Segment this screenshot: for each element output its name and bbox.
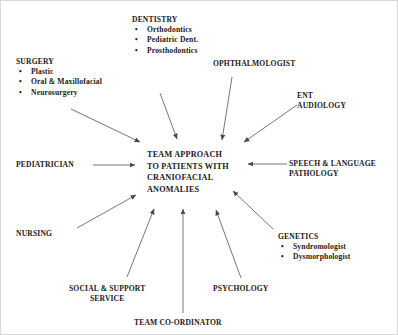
node-psychology[interactable]: PSYCHOLOGY [213,284,269,294]
node-genetics-list: •Syndromologist •Dysmorphologist [278,242,351,262]
list-item-label: Pediatric Dent. [147,35,198,44]
arrow-nursing-to-center [77,195,136,228]
center-line-3: CRANIOFACIAL [147,172,229,184]
node-psychology-heading: PSYCHOLOGY [213,284,269,294]
node-ent-audiology-line1: ENT [297,91,346,101]
node-ophthalmologist-heading: OPHTHALMOLOGIST [213,59,295,69]
list-item: •Plastic [16,67,102,77]
node-surgery-heading: SURGERY [16,57,102,67]
list-item-label: Dysmorphologist [293,252,351,261]
node-social-support-line2: SERVICE [69,294,145,304]
node-pediatrician[interactable]: PEDIATRICIAN [16,160,74,170]
node-dentistry-heading: DENTISTRY [132,15,198,25]
node-pediatrician-heading: PEDIATRICIAN [16,160,74,170]
arrow-social-support-to-center [127,209,154,277]
center-line-2: TO PATIENTS WITH [147,161,229,173]
list-item-label: Plastic [31,67,54,76]
node-team-coordinator[interactable]: TEAM CO-ORDINATOR [134,318,222,328]
list-item-label: Prosthodontics [147,46,197,55]
list-item-label: Oral & Maxillofacial [31,77,102,86]
arrow-ophthalmologist-to-center [222,77,232,140]
node-nursing[interactable]: NURSING [16,229,52,239]
arrow-ent-audiology-to-center [244,105,297,142]
node-team-coordinator-heading: TEAM CO-ORDINATOR [134,318,222,328]
list-item-label: Syndromologist [293,242,346,251]
bullet-icon: • [19,67,22,77]
list-item: •Pediatric Dent. [132,35,198,45]
node-ophthalmologist[interactable]: OPHTHALMOLOGIST [213,59,295,69]
arrow-dentistry-to-center [160,93,177,139]
list-item-label: Neurosurgery [31,88,78,97]
list-item: •Prosthodontics [132,46,198,56]
center-line-4: ANOMALIES [147,184,229,196]
node-nursing-heading: NURSING [16,229,52,239]
bullet-icon: • [19,77,22,87]
node-dentistry-list: •Orthodontics •Pediatric Dent. •Prosthod… [132,25,198,56]
node-speech-language-line2: PATHOLOGY [289,169,376,179]
center-node-team-approach: TEAM APPROACH TO PATIENTS WITH CRANIOFAC… [147,149,229,195]
list-item: •Syndromologist [278,242,351,252]
arrow-psychology-to-center [216,210,241,278]
node-surgery[interactable]: SURGERY •Plastic •Oral & Maxillofacial •… [16,57,102,98]
list-item: •Orthodontics [132,25,198,35]
node-speech-language-line1: SPEECH & LANGUAGE [289,159,376,169]
arrow-genetics-to-center [233,191,273,229]
bullet-icon: • [281,252,284,262]
node-speech-language-pathology[interactable]: SPEECH & LANGUAGE PATHOLOGY [289,159,376,179]
bullet-icon: • [135,35,138,45]
center-line-1: TEAM APPROACH [147,149,229,161]
bullet-icon: • [135,46,138,56]
bullet-icon: • [19,88,22,98]
list-item: •Dysmorphologist [278,252,351,262]
node-social-support-service[interactable]: SOCIAL & SUPPORT SERVICE [69,284,145,304]
list-item-label: Orthodontics [147,25,192,34]
craniofacial-team-diagram: DENTISTRY •Orthodontics •Pediatric Dent.… [0,0,398,335]
node-genetics-heading: GENETICS [278,232,351,242]
node-social-support-line1: SOCIAL & SUPPORT [69,284,145,294]
bullet-icon: • [135,25,138,35]
arrow-surgery-to-center [71,109,140,142]
node-genetics[interactable]: GENETICS •Syndromologist •Dysmorphologis… [278,232,351,263]
node-dentistry[interactable]: DENTISTRY •Orthodontics •Pediatric Dent.… [132,15,198,56]
bullet-icon: • [281,242,284,252]
list-item: •Oral & Maxillofacial [16,77,102,87]
node-ent-audiology[interactable]: ENT AUDIOLOGY [297,91,346,111]
list-item: •Neurosurgery [16,88,102,98]
node-ent-audiology-line2: AUDIOLOGY [297,101,346,111]
node-surgery-list: •Plastic •Oral & Maxillofacial •Neurosur… [16,67,102,98]
